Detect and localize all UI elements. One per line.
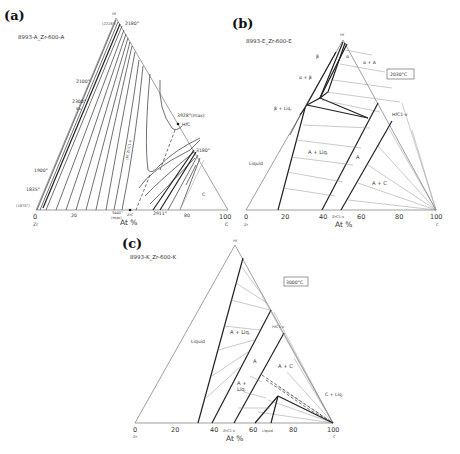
apex-temp: 2180° bbox=[125, 21, 139, 26]
hfc-point bbox=[177, 123, 180, 126]
tick-80: 80 bbox=[395, 213, 403, 221]
label-zrc: ZrC bbox=[127, 213, 134, 217]
corner-c: C bbox=[225, 222, 228, 227]
tick-20: 20 bbox=[281, 213, 289, 221]
label-3180: 3180° bbox=[196, 148, 210, 153]
panel-c: (c) 8993-K_Zr-600-K Hf bbox=[122, 236, 343, 443]
tick-60: 60 bbox=[249, 426, 257, 434]
label-ba: Ba bbox=[76, 107, 81, 111]
tick-0: 0 bbox=[244, 213, 248, 221]
label-3440: 3440° bbox=[112, 211, 123, 215]
temperature-label: 2030°C bbox=[390, 72, 407, 77]
tick-20: 20 bbox=[171, 426, 179, 434]
label-alpha-a: α + A bbox=[363, 60, 377, 65]
zrc-point bbox=[129, 209, 132, 212]
tick-20: 20 bbox=[71, 213, 77, 218]
label-a: A bbox=[253, 358, 257, 364]
panel-a: (a) 8993-A_Zr-600-A Hf (2 bbox=[4, 8, 231, 227]
label-2911: 2911° bbox=[153, 211, 167, 216]
panel-a-subtitle: 8993-A_Zr-600-A bbox=[18, 34, 64, 41]
label-1835: 1835° bbox=[26, 187, 40, 192]
label-a-liq: A + Liq. bbox=[230, 329, 251, 336]
apex-label-hf: Hf bbox=[340, 33, 345, 37]
label-3928: 3928°(max) bbox=[177, 113, 205, 118]
label-liquid-bottom: Liquid bbox=[262, 429, 273, 433]
label-hfc: HfC1-x bbox=[392, 112, 408, 117]
ternary-diagram-figure: (a) 8993-A_Zr-600-A Hf (2 bbox=[0, 0, 460, 454]
label-beta: β bbox=[316, 54, 319, 59]
label-c-liq: C + Liq. bbox=[325, 392, 343, 397]
left-corner-temp: (1870°) bbox=[16, 204, 30, 208]
label-hfc: HfC1-x bbox=[272, 325, 285, 329]
label-a: A bbox=[356, 154, 360, 160]
tick-100: 100 bbox=[327, 426, 339, 434]
label-alpha: α bbox=[346, 54, 349, 59]
label-c-region: C bbox=[202, 192, 205, 197]
tick-40: 40 bbox=[210, 426, 218, 434]
corner-zr: Zr bbox=[244, 223, 248, 227]
label-liq: Liq. bbox=[237, 386, 247, 393]
label-2300: 2300° bbox=[72, 99, 86, 104]
label-hfc: HfC bbox=[182, 122, 190, 127]
panel-b-triangle bbox=[246, 40, 436, 210]
label-a-liq: A + Liq. bbox=[308, 149, 329, 156]
label-1900: 1900° bbox=[34, 168, 48, 173]
corner-zr: Zr bbox=[133, 435, 137, 439]
tick-80: 80 bbox=[289, 426, 297, 434]
corner-zr: Zr bbox=[33, 222, 38, 227]
axis-label: At % bbox=[226, 434, 243, 443]
tick-100: 100 bbox=[219, 213, 231, 221]
panel-c-subtitle: 8993-K_Zr-600-K bbox=[130, 254, 176, 261]
tick-80: 80 bbox=[184, 213, 190, 218]
apex-label-hf: Hf bbox=[233, 239, 238, 243]
apex-temp-left: (2218°) bbox=[102, 22, 116, 26]
temperature-label: 3000°C bbox=[286, 280, 303, 285]
label-zrc: ZrC1-x bbox=[332, 215, 345, 219]
panel-b: (b) 8993-E_Zr-600-E bbox=[232, 16, 442, 229]
label-a-c: A + C bbox=[372, 180, 387, 186]
corner-c: C bbox=[333, 435, 336, 439]
tick-0: 0 bbox=[33, 213, 37, 221]
tick-100: 100 bbox=[430, 213, 442, 221]
tick-0: 0 bbox=[133, 426, 137, 434]
label-beta-liq: β + Liq. bbox=[274, 106, 292, 111]
label-zrc: ZrC1-x bbox=[223, 429, 236, 433]
label-2100: 2100° bbox=[76, 79, 90, 84]
panel-b-letter: (b) bbox=[232, 16, 253, 31]
label-liquid: Liquid bbox=[191, 339, 205, 344]
axis-label: At % bbox=[120, 218, 137, 227]
panel-a-letter: (a) bbox=[4, 8, 25, 23]
label-alpha-beta: α + β bbox=[299, 75, 312, 80]
panel-b-subtitle: 8993-E_Zr-600-E bbox=[246, 38, 292, 45]
axis-label: At % bbox=[335, 220, 352, 229]
tick-60: 60 bbox=[357, 213, 365, 221]
label-a-c: A + C bbox=[278, 363, 293, 369]
panel-c-letter: (c) bbox=[122, 236, 142, 251]
corner-c: C bbox=[436, 223, 439, 227]
apex-label-hf: Hf bbox=[112, 12, 117, 16]
tick-40: 40 bbox=[319, 213, 327, 221]
label-liquid: Liquid bbox=[249, 161, 263, 166]
